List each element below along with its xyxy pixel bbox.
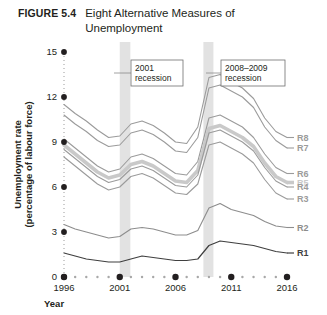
y-axis: 03691215 <box>46 46 66 282</box>
y-tick-label-6: 6 <box>52 181 57 192</box>
x-minor-tick-1999 <box>96 276 98 278</box>
annotation-line1-rec-2008: 2008–2009 <box>225 63 268 73</box>
series-label-r2: R2 <box>297 223 309 233</box>
x-minor-tick-2010 <box>219 276 221 278</box>
x-minor-tick-2007 <box>185 276 187 278</box>
series-label-r8: R8 <box>297 133 309 143</box>
x-minor-tick-2015 <box>275 276 277 278</box>
y-tick-dot-3 <box>61 229 67 235</box>
x-tick-dot-2016 <box>284 274 290 280</box>
page-title: Eight Alternative Measures of Unemployme… <box>85 6 290 35</box>
annotation-line1-rec-2001: 2001 <box>135 63 154 73</box>
x-tick-label-2001: 2001 <box>109 282 130 293</box>
x-minor-tick-2014 <box>264 276 266 278</box>
annotation-line2-rec-2008: recession <box>225 73 262 83</box>
x-tick-dot-2011 <box>228 274 234 280</box>
x-minor-tick-2012 <box>241 276 243 278</box>
x-minor-tick-1998 <box>85 276 87 278</box>
figure-title-block: FIGURE 5.4 Eight Alternative Measures of… <box>18 6 318 35</box>
series-label-r3: R3 <box>297 194 309 204</box>
y-axis-title-line1: Unemployment rate <box>12 120 23 209</box>
series-line-r1 <box>64 241 287 262</box>
series-line-r2 <box>64 204 287 239</box>
y-tick-dot-15 <box>61 49 67 55</box>
x-minor-tick-2013 <box>252 276 254 278</box>
series-lines-layer <box>64 75 287 263</box>
x-axis-title: Year <box>44 298 64 309</box>
x-axis: 19962001200620112016 <box>53 274 297 293</box>
y-tick-label-0: 0 <box>52 271 57 282</box>
x-minor-tick-2008 <box>197 276 199 278</box>
x-tick-label-1996: 1996 <box>53 282 74 293</box>
series-label-r4: R4 <box>297 182 309 192</box>
series-label-r1: R1 <box>297 248 309 258</box>
x-tick-dot-2006 <box>172 274 178 280</box>
figure-number: FIGURE 5.4 <box>18 6 76 20</box>
x-minor-tick-2002 <box>130 276 132 278</box>
unemployment-line-chart: 19962001200620112016 03691215 R8R7R6R5R4… <box>0 36 327 315</box>
series-label-r7: R7 <box>297 143 309 153</box>
y-tick-dot-12 <box>61 94 67 100</box>
x-minor-tick-2005 <box>163 276 165 278</box>
y-tick-dot-0 <box>61 274 67 280</box>
y-tick-label-3: 3 <box>52 226 57 237</box>
annotation-line2-rec-2001: recession <box>135 73 172 83</box>
y-tick-label-12: 12 <box>46 91 57 102</box>
y-tick-dot-9 <box>61 139 67 145</box>
x-minor-tick-1997 <box>74 276 76 278</box>
x-minor-tick-2000 <box>107 276 109 278</box>
y-tick-label-15: 15 <box>46 46 57 57</box>
x-minor-tick-2003 <box>141 276 143 278</box>
x-tick-dot-2001 <box>117 274 123 280</box>
x-minor-tick-2004 <box>152 276 154 278</box>
y-tick-label-9: 9 <box>52 136 57 147</box>
series-labels-layer: R8R7R6R5R4R3R2R1 <box>287 133 309 259</box>
y-axis-title-line2: (percentage of labour force) <box>23 101 34 227</box>
figure-container: FIGURE 5.4 Eight Alternative Measures of… <box>0 0 327 315</box>
annotations-layer: 2001recession2008–2009recession <box>114 60 285 86</box>
chart-area: 19962001200620112016 03691215 R8R7R6R5R4… <box>0 36 327 315</box>
x-tick-label-2006: 2006 <box>165 282 186 293</box>
x-tick-label-2011: 2011 <box>221 282 241 293</box>
series-line-r4 <box>64 130 287 187</box>
y-tick-dot-6 <box>61 184 67 190</box>
x-tick-label-2016: 2016 <box>276 282 297 293</box>
x-minor-tick-2009 <box>208 276 210 278</box>
